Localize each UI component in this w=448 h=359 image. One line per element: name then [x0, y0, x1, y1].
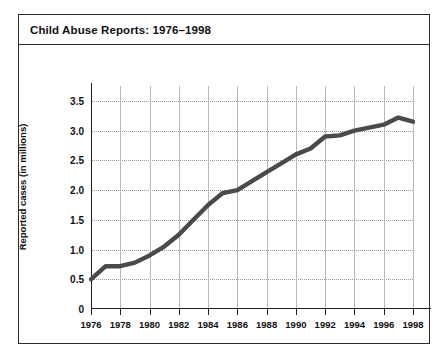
- x-axis-tick-mark: [91, 309, 92, 315]
- x-axis-tick-label: 1990: [285, 319, 306, 330]
- x-axis-tick-mark: [296, 309, 297, 315]
- page-title: Child Abuse Reports: 1976–1998: [19, 24, 211, 36]
- x-axis-tick-mark: [384, 309, 385, 315]
- y-axis-tick-label: 2.0: [70, 185, 84, 196]
- x-axis-tick-mark: [150, 309, 151, 315]
- x-axis-tick-mark: [208, 309, 209, 315]
- x-axis-tick-label: 1978: [110, 319, 131, 330]
- x-axis-tick-mark: [325, 309, 326, 315]
- chart-title-bar: Child Abuse Reports: 1976–1998: [19, 15, 429, 45]
- y-axis-label: Reported cases (in millions): [17, 0, 31, 97]
- y-axis-tick-label: 3.5: [70, 95, 84, 106]
- x-axis-tick-label: 1994: [344, 319, 365, 330]
- x-axis-tick-mark: [120, 309, 121, 315]
- x-axis-tick-mark: [237, 309, 238, 315]
- series-line-chart: [91, 86, 413, 309]
- x-axis-tick-label: 1988: [256, 319, 277, 330]
- y-axis-tick-label: 3.0: [70, 125, 84, 136]
- x-axis-tick-label: 1980: [139, 319, 160, 330]
- x-axis-tick-mark: [413, 309, 414, 315]
- x-axis-tick-label: 1992: [315, 319, 336, 330]
- y-axis-tick-label: 1.5: [70, 214, 84, 225]
- plot-container: Reported cases (in millions) 00.51.01.52…: [19, 45, 429, 343]
- x-axis-tick-label: 1976: [80, 319, 101, 330]
- x-axis-tick-label: 1996: [373, 319, 394, 330]
- x-axis-tick-label: 1984: [198, 319, 219, 330]
- y-axis-tick-label: 0.5: [70, 274, 84, 285]
- y-axis-tick-label: 1.0: [70, 244, 84, 255]
- chart-figure: Child Abuse Reports: 1976–1998 Reported …: [18, 14, 430, 344]
- y-axis-label-text: Reported cases (in millions): [17, 97, 28, 277]
- y-axis-tick-label: 0: [78, 304, 84, 315]
- x-axis-tick-mark: [267, 309, 268, 315]
- x-axis-tick-label: 1986: [227, 319, 248, 330]
- y-axis-tick-label: 2.5: [70, 155, 84, 166]
- x-axis-tick-mark: [179, 309, 180, 315]
- plot-area: 00.51.01.52.02.53.03.5 19761978198019821…: [91, 86, 413, 309]
- x-axis-tick-mark: [354, 309, 355, 315]
- x-axis-tick-label: 1998: [402, 319, 423, 330]
- x-axis-tick-label: 1982: [168, 319, 189, 330]
- series-line-path: [91, 118, 413, 280]
